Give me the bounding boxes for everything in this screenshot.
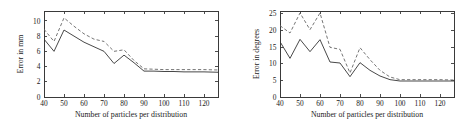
y-axis-tick-label: 20 xyxy=(269,26,277,35)
chart-svg-left: 4050607080901001101200246810Number of pa… xyxy=(0,0,236,132)
data-series-solid xyxy=(280,39,454,81)
x-axis-tick-label: 110 xyxy=(179,99,190,108)
x-axis-tick-label: 110 xyxy=(415,99,426,108)
x-axis-tick-label: 120 xyxy=(198,99,209,108)
chart-panel-error-in-mm: 4050607080901001101200246810Number of pa… xyxy=(0,0,236,132)
y-axis-tick-label: 10 xyxy=(269,59,277,68)
x-axis-tick-label: 50 xyxy=(60,99,68,108)
x-axis-tick-label: 40 xyxy=(40,99,48,108)
series-group xyxy=(44,18,218,72)
x-axis-tick-label: 70 xyxy=(100,99,108,108)
chart-svg-right: 4050607080901001101200510152025Number of… xyxy=(236,0,472,132)
x-axis-tick-label: 40 xyxy=(276,99,284,108)
figure-two-panel-line-charts: 4050607080901001101200246810Number of pa… xyxy=(0,0,472,132)
x-axis-title: Number of particles per distribution xyxy=(311,110,423,119)
x-axis-tick-label: 60 xyxy=(80,99,88,108)
y-axis-tick-label: 5 xyxy=(273,76,277,85)
x-axis-tick-label: 80 xyxy=(356,99,364,108)
x-axis-tick-label: 80 xyxy=(120,99,128,108)
y-axis-tick-label: 2 xyxy=(37,77,41,86)
plot-frame xyxy=(44,11,218,97)
plot-frame xyxy=(280,11,454,97)
x-axis-tick-label: 120 xyxy=(434,99,445,108)
data-series-solid xyxy=(44,30,218,72)
x-axis-tick-label: 70 xyxy=(336,99,344,108)
y-axis-tick-label: 6 xyxy=(37,47,41,56)
x-axis-tick-label: 50 xyxy=(296,99,304,108)
data-series-dashed xyxy=(44,18,218,70)
y-axis-tick-label: 8 xyxy=(37,32,41,41)
x-axis-tick-label: 90 xyxy=(140,99,148,108)
y-axis-tick-label: 0 xyxy=(37,93,41,102)
y-axis-tick-label: 10 xyxy=(33,17,41,26)
y-axis-title: Error in mm xyxy=(16,35,25,74)
x-axis-tick-label: 60 xyxy=(316,99,324,108)
chart-panel-error-in-degrees: 4050607080901001101200510152025Number of… xyxy=(236,0,472,132)
x-axis-tick-label: 90 xyxy=(376,99,384,108)
y-axis-tick-label: 4 xyxy=(37,62,41,71)
y-axis-tick-label: 0 xyxy=(273,93,277,102)
y-axis-title: Error in degrees xyxy=(252,29,261,79)
x-axis-tick-label: 100 xyxy=(394,99,405,108)
y-axis-tick-label: 15 xyxy=(269,43,277,52)
x-axis-title: Number of particles per distribution xyxy=(75,110,187,119)
series-group xyxy=(280,13,454,81)
y-axis-tick-label: 25 xyxy=(269,9,277,18)
x-axis-tick-label: 100 xyxy=(158,99,169,108)
